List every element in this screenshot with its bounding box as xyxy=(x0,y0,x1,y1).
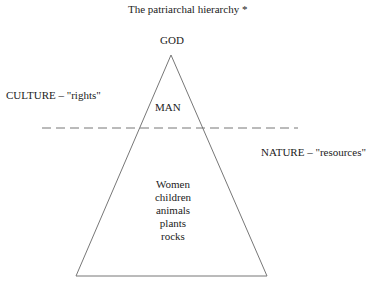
list-item: animals xyxy=(140,204,206,217)
lower-items-list: Women children animals plants rocks xyxy=(140,178,206,243)
list-item: Women xyxy=(140,178,206,191)
list-item: rocks xyxy=(140,230,206,243)
list-item: plants xyxy=(140,217,206,230)
list-item: children xyxy=(140,191,206,204)
